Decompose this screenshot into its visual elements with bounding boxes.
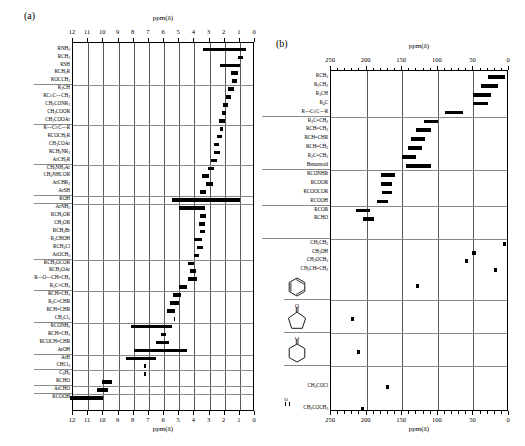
shift-range-bar [408, 146, 422, 150]
axis-minor-tick [430, 68, 431, 71]
axis-tick [472, 66, 473, 70]
shift-marker-bar [416, 284, 419, 289]
axis-minor-tick [394, 68, 395, 71]
axis-minor-tick [494, 68, 495, 71]
compound-label: R2C=CH2 [262, 118, 328, 124]
axis-minor-tick [501, 68, 502, 71]
gridline-horizontal [331, 170, 507, 171]
gridline-horizontal [331, 117, 507, 118]
axis-minor-tick [415, 411, 416, 414]
reference-compound-label: CH3OCH3 [262, 257, 328, 263]
shift-range-bar [377, 200, 388, 204]
reference-compound-label: CH3OH [262, 249, 328, 255]
shift-range-bar [381, 173, 395, 177]
axis-tick-label-bottom: 200 [358, 416, 374, 423]
gridline-horizontal-extension [262, 169, 330, 170]
axis-tick-label-bottom: 250 [322, 416, 338, 423]
axis-tick [401, 66, 402, 70]
svg-text:O: O [295, 337, 299, 341]
shift-range-bar [416, 128, 430, 132]
axis-minor-tick [444, 68, 445, 71]
compound-label: RCOR [262, 207, 328, 212]
axis-minor-tick [487, 68, 488, 71]
axis-minor-tick [451, 411, 452, 414]
axis-minor-tick [415, 68, 416, 71]
axis-tick [472, 411, 473, 415]
axis-minor-tick [494, 411, 495, 414]
shift-marker-bar [386, 385, 390, 390]
axis-tick [508, 411, 509, 415]
axis-minor-tick [480, 68, 481, 71]
structure-benzene [284, 271, 310, 301]
axis-tick [437, 66, 438, 70]
gridline-horizontal [331, 300, 507, 301]
shift-range-bar [424, 120, 438, 124]
gridline-horizontal-extension [284, 365, 330, 366]
compound-label: R3CH [262, 91, 328, 97]
axis-tick-label-top: 150 [393, 56, 409, 63]
axis-minor-tick [351, 411, 352, 414]
shift-range-bar [445, 111, 463, 115]
compound-label: RCH=CH2 [262, 126, 328, 132]
gridline-horizontal-extension [262, 238, 330, 239]
compound-label: RCONHR [262, 171, 328, 176]
reference-compound-label: CH3CH3 [262, 240, 328, 246]
axis-minor-tick [337, 68, 338, 71]
shift-marker-bar [357, 350, 360, 355]
shift-range-bar [481, 84, 499, 88]
axis-minor-tick [337, 411, 338, 414]
axis-tick-label-top: 50 [464, 56, 480, 63]
compound-label: CH3COCl [262, 383, 328, 389]
axis-minor-tick [465, 411, 466, 414]
compound-label: RCH=CH2 [262, 144, 328, 150]
shift-range-bar [411, 137, 425, 141]
gridline-horizontal-extension [262, 116, 330, 117]
axis-minor-tick [394, 411, 395, 414]
shift-marker-bar [361, 407, 364, 412]
compound-label: RCOOCOR [262, 189, 328, 194]
shift-marker-bar [494, 268, 497, 272]
axis-tick [366, 66, 367, 70]
axis-tick-label-bottom: 150 [393, 416, 409, 423]
gridline-horizontal-extension [284, 299, 330, 300]
axis-minor-tick [458, 68, 459, 71]
gridline-vertical [402, 71, 403, 410]
axis-tick-label-top: 250 [322, 56, 338, 63]
panel-b-carbon-nmr: (b)ppm(δ)250250200200150150100100505000p… [0, 0, 525, 446]
axis-tick [366, 411, 367, 415]
structure-cyclohexanone: O [284, 337, 310, 367]
axis-minor-tick [501, 411, 502, 414]
shift-range-bar [473, 102, 487, 106]
axis-tick [401, 411, 402, 415]
axis-tick [437, 411, 438, 415]
gridline-vertical [438, 71, 439, 410]
panel-b-plot-area [330, 70, 508, 411]
compound-label: Benzenoid [262, 162, 328, 167]
benzene-structure [284, 271, 310, 301]
shift-range-bar [381, 182, 392, 186]
compound-label: RCHO [262, 215, 328, 220]
shift-range-bar [473, 93, 491, 97]
gridline-horizontal [331, 366, 507, 367]
axis-minor-tick [451, 68, 452, 71]
axis-minor-tick [358, 411, 359, 414]
axis-minor-tick [423, 411, 424, 414]
axis-minor-tick [487, 411, 488, 414]
panel-b-letter: (b) [276, 38, 288, 49]
axis-minor-tick [480, 411, 481, 414]
compound-label: CH3COCH3 [262, 405, 328, 411]
compound-label: RCH3 [262, 73, 328, 79]
shift-marker-bar [351, 317, 354, 322]
axis-tick-label-bottom: 100 [429, 416, 445, 423]
axis-minor-tick [458, 411, 459, 414]
axis-tick-label-top: 200 [358, 56, 374, 63]
shift-range-bar [356, 209, 370, 213]
axis-tick-label-top: 100 [429, 56, 445, 63]
shift-range-bar [406, 164, 431, 168]
axis-tick-label-bottom: 50 [464, 416, 480, 423]
gridline-horizontal-extension [262, 205, 330, 206]
shift-range-bar [363, 217, 374, 221]
gridline-horizontal-extension [284, 332, 330, 333]
axis-tick [330, 411, 331, 415]
shift-range-bar [382, 191, 391, 195]
